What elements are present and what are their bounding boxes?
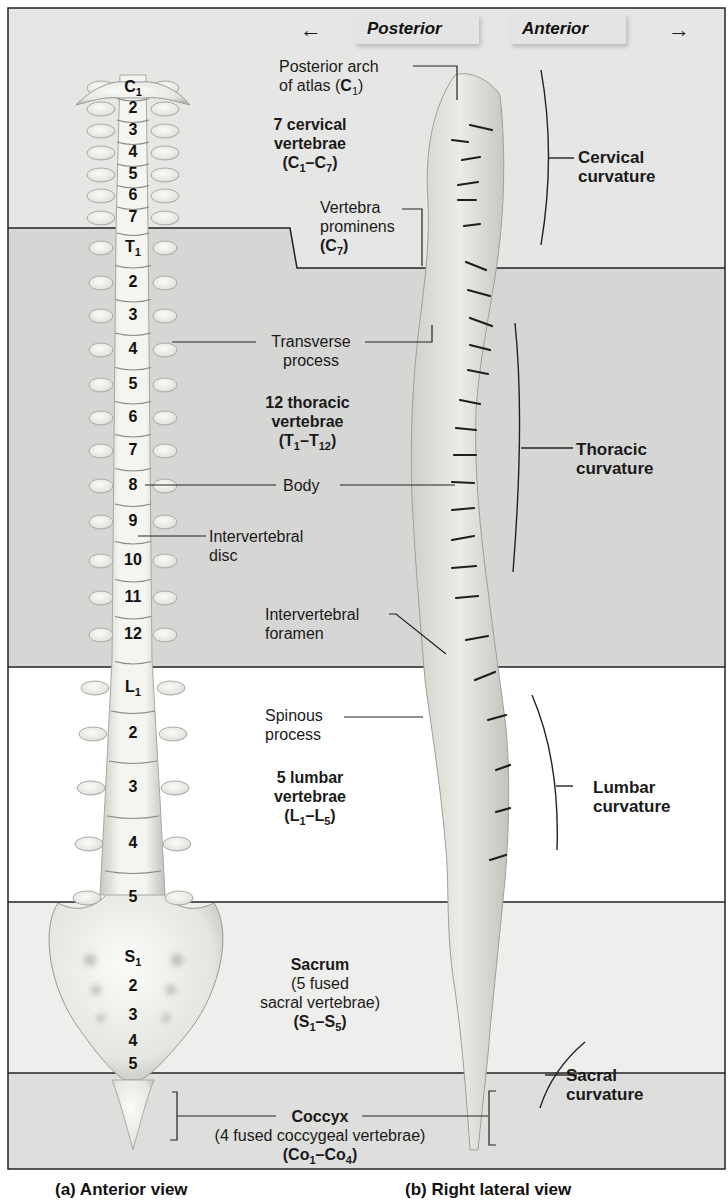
cervical-curvature-label: Cervical curvature bbox=[578, 148, 655, 186]
vertebra-label: 5 bbox=[118, 165, 148, 183]
caption-anterior-view: (a) Anterior view bbox=[55, 1180, 188, 1200]
transverse-process-label: Transverse process bbox=[258, 332, 364, 370]
lumbar-curvature-label: Lumbar curvature bbox=[593, 778, 670, 816]
vertebra-label: 6 bbox=[118, 408, 148, 426]
caption-right-lateral-view: (b) Right lateral view bbox=[405, 1180, 571, 1200]
vertebra-label: 12 bbox=[118, 625, 148, 643]
vertebra-label: 3 bbox=[118, 121, 148, 139]
vertebra-label: C1 bbox=[118, 78, 148, 98]
thoracic-vertebrae-label: 12 thoracic vertebrae (T1–T12) bbox=[245, 393, 370, 456]
coccyx-label: Coccyx (4 fused coccygeal vertebrae) (Co… bbox=[180, 1107, 460, 1170]
vertebra-label: 4 bbox=[118, 834, 148, 852]
vertebra-label: 3 bbox=[118, 778, 148, 796]
vertebra-label: 3 bbox=[118, 1006, 148, 1024]
spinous-process-label: Spinous process bbox=[265, 706, 323, 744]
vertebra-label: 3 bbox=[118, 306, 148, 324]
cervical-vertebrae-label: 7 cervical vertebrae (C1–C7) bbox=[250, 115, 370, 178]
thoracic-curvature-label: Thoracic curvature bbox=[576, 440, 653, 478]
vertebra-label: 6 bbox=[118, 186, 148, 204]
vertebra-label: S1 bbox=[118, 948, 148, 968]
vertebra-label: 4 bbox=[118, 340, 148, 358]
body-label: Body bbox=[283, 476, 319, 495]
sacrum-label: Sacrum (5 fused sacral vertebrae) (S1–S5… bbox=[230, 955, 410, 1037]
posterior-header: Posterior bbox=[355, 14, 479, 44]
vertebra-label: L1 bbox=[118, 678, 148, 698]
vertebra-label: 4 bbox=[118, 143, 148, 161]
vertebra-label: 7 bbox=[118, 208, 148, 226]
sacral-curvature-label: Sacral curvature bbox=[566, 1066, 643, 1104]
vertebra-label: 10 bbox=[118, 551, 148, 569]
vertebra-label: 7 bbox=[118, 441, 148, 459]
vertebra-label: 2 bbox=[118, 724, 148, 742]
anterior-header: Anterior bbox=[510, 14, 626, 44]
intervertebral-disc-label: Intervertebral disc bbox=[209, 527, 303, 565]
vertebra-label: 5 bbox=[118, 888, 148, 906]
vertebra-label: T1 bbox=[118, 238, 148, 258]
vertebra-label: 2 bbox=[118, 977, 148, 995]
lumbar-vertebrae-label: 5 lumbar vertebrae (L1–L5) bbox=[255, 768, 365, 831]
vertebra-label: 4 bbox=[118, 1032, 148, 1050]
posterior-arch-label: Posterior arch of atlas (C1) bbox=[279, 57, 379, 101]
posterior-arrow-icon: ← bbox=[300, 20, 322, 39]
vertebra-label: 5 bbox=[118, 375, 148, 393]
vertebra-prominens-label: Vertebra prominens (C7) bbox=[320, 198, 395, 261]
vertebra-label: 11 bbox=[118, 588, 148, 606]
vertebra-label: 8 bbox=[118, 476, 148, 494]
vertebra-label: 9 bbox=[118, 512, 148, 530]
vertebra-label: 2 bbox=[118, 99, 148, 117]
vertebra-label: 2 bbox=[118, 273, 148, 291]
intervertebral-foramen-label: Intervertebral foramen bbox=[265, 605, 359, 643]
anterior-arrow-icon: → bbox=[668, 20, 690, 39]
vertebra-label: 5 bbox=[118, 1055, 148, 1073]
